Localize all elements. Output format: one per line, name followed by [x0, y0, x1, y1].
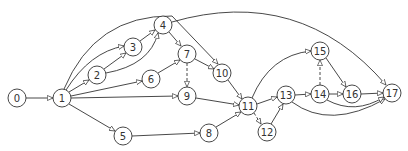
node-label: 11	[242, 101, 255, 112]
node-label: 5	[120, 131, 126, 142]
edge-1-to-9	[71, 96, 178, 98]
node-10: 10	[213, 64, 231, 82]
node-label: 15	[314, 46, 327, 57]
edge-4-to-7	[169, 32, 181, 46]
node-1: 1	[53, 89, 71, 107]
node-17: 17	[383, 84, 401, 102]
node-label: 8	[206, 128, 212, 139]
node-12: 12	[258, 123, 276, 141]
node-4: 4	[154, 16, 172, 34]
edge-1-to-6	[71, 81, 142, 96]
node-3: 3	[124, 38, 142, 56]
edge-3-to-4	[140, 30, 155, 41]
edge-13-to-17	[292, 99, 385, 115]
edge-7-to-10	[195, 59, 214, 69]
node-0: 0	[8, 89, 26, 107]
node-label: 2	[94, 70, 100, 81]
node-label: 6	[148, 74, 154, 85]
edge-1-to-5	[69, 104, 115, 131]
node-label: 14	[314, 89, 327, 100]
edge-11-to-13	[257, 97, 277, 104]
node-label: 13	[280, 90, 293, 101]
node-8: 8	[200, 124, 218, 142]
node-label: 4	[160, 20, 166, 31]
node-9: 9	[178, 87, 196, 105]
edge-6-to-7	[158, 60, 180, 73]
node-label: 7	[184, 49, 190, 60]
node-16: 16	[343, 85, 361, 103]
edge-9-to-11	[196, 98, 239, 105]
node-label: 1	[59, 93, 65, 104]
edge-15-to-16	[326, 58, 346, 87]
node-7: 7	[178, 45, 196, 63]
node-label: 0	[14, 93, 20, 104]
edge-12-to-13	[271, 104, 283, 124]
node-6: 6	[142, 70, 160, 88]
directed-graph: 01234567891011121314151617	[0, 0, 408, 151]
edge-16-to-17	[361, 93, 383, 94]
node-label: 3	[130, 42, 136, 53]
edges-layer	[26, 12, 386, 136]
node-label: 10	[216, 68, 229, 79]
edge-5-to-8	[132, 133, 200, 136]
edge-2-to-3	[104, 53, 126, 69]
edge-4-to-17	[172, 12, 386, 85]
node-2: 2	[88, 66, 106, 84]
node-label: 16	[346, 89, 359, 100]
node-15: 15	[311, 42, 329, 60]
edge-10-to-11	[228, 80, 242, 99]
node-5: 5	[114, 127, 132, 145]
node-14: 14	[311, 85, 329, 103]
node-13: 13	[277, 86, 295, 104]
edge-13-to-14	[295, 94, 311, 95]
node-label: 9	[184, 91, 190, 102]
edge-11-to-12	[254, 113, 261, 124]
node-label: 12	[261, 127, 274, 138]
edge-8-to-11	[216, 112, 241, 127]
node-11: 11	[239, 97, 257, 115]
node-label: 17	[386, 88, 399, 99]
